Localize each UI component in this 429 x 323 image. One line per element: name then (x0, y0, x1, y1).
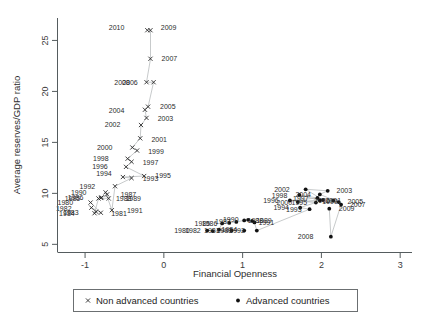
data-point-label: 1991 (127, 207, 143, 214)
y-tick-label: 10 (40, 188, 50, 198)
series-trend-line (91, 30, 154, 213)
data-point-marker (124, 165, 128, 169)
chart-legend: Non advanced countriesAdvanced countries (74, 290, 358, 312)
data-point-label: 1984 (59, 210, 75, 217)
data-point-label: 1992 (229, 227, 245, 234)
series-point-labels: 1980198119821983198419851986198719881989… (56, 24, 366, 240)
data-point-label: 2002 (274, 186, 290, 193)
x-axis-title: Financial Openness (193, 268, 277, 279)
data-point-marker (99, 211, 103, 215)
data-point-marker (327, 207, 331, 211)
data-point-label: 2003 (158, 115, 174, 122)
data-point-marker (126, 157, 130, 161)
data-point-label: 1991 (259, 219, 275, 226)
data-point-label: 1992 (80, 183, 96, 190)
data-point-label: 2010 (109, 24, 125, 31)
data-point-label: 2007 (162, 55, 178, 62)
legend-label: Advanced countries (246, 295, 330, 306)
data-point-marker (329, 235, 333, 239)
data-point-label: 2002 (105, 121, 121, 128)
plot-area: 1980198119821983198419851986198719881989… (56, 24, 366, 240)
data-point-label: 1981 (111, 210, 127, 217)
scatter-chart-figure: 1980198119821983198419851986198719881989… (0, 0, 429, 323)
data-point-label: 2006 (314, 197, 330, 204)
data-point-label: 2009 (339, 205, 355, 212)
data-point-label: 2009 (161, 24, 177, 31)
data-point-label: 2003 (337, 187, 353, 194)
data-point-label: 1990 (71, 189, 87, 196)
data-point-label: 1998 (93, 155, 109, 162)
data-point-marker (89, 206, 93, 210)
data-point-marker (130, 145, 134, 149)
data-point-label: 1989 (125, 195, 141, 202)
data-point-label: 2001 (151, 136, 167, 143)
data-point-marker (242, 218, 246, 222)
x-tick-label: 2 (319, 260, 324, 270)
data-point-label: 1982 (185, 227, 201, 234)
data-point-label: 2008 (298, 233, 314, 240)
data-point-marker (308, 207, 312, 211)
data-point-marker (326, 189, 330, 193)
chart-svg: 1980198119821983198419851986198719881989… (0, 0, 429, 323)
data-point-label: 2005 (160, 103, 176, 110)
y-tick-label: 15 (40, 137, 50, 147)
data-point-marker (129, 160, 133, 164)
data-point-label: 1996 (92, 163, 108, 170)
y-axis-ticks: 510152025 (40, 35, 57, 246)
x-tick-label: -1 (81, 260, 89, 270)
data-point-label: 2008 (114, 79, 130, 86)
data-point-label: 2004 (109, 107, 125, 114)
data-point-label: 1994 (96, 170, 112, 177)
y-tick-label: 25 (40, 35, 50, 45)
data-point-marker (88, 200, 92, 204)
data-point-marker (318, 192, 322, 196)
data-point-label: 1997 (143, 159, 159, 166)
y-tick-label: 20 (40, 86, 50, 96)
data-point-label: 2000 (97, 144, 113, 151)
data-point-label: 1990 (223, 216, 239, 223)
y-tick-label: 5 (40, 242, 50, 247)
y-axis-title: Average reserves/GDP ratio (11, 76, 22, 194)
x-tick-label: 3 (398, 260, 403, 270)
data-point-label: 1998 (272, 192, 288, 199)
data-point-marker (255, 229, 259, 233)
legend-marker-advanced (236, 299, 240, 303)
data-point-marker (103, 190, 107, 194)
data-point-marker (135, 148, 139, 152)
data-point-label: 1995 (155, 172, 171, 179)
data-point-label: 2000 (277, 199, 293, 206)
data-point-label: 2004 (295, 191, 311, 198)
legend-label: Non advanced countries (96, 295, 199, 306)
x-tick-label: 0 (161, 260, 166, 270)
data-point-label: 1999 (148, 148, 164, 155)
